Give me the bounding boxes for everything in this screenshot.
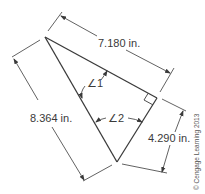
dimension-top-label: 7.180 in. (98, 37, 140, 49)
dimension-left-label: 8.364 in. (30, 112, 72, 124)
hypotenuse-side (45, 37, 117, 162)
angle-1-label: ∠1 (87, 77, 103, 89)
triangle-diagram: 7.180 in. 8.364 in. 4.290 in. ∠1 ∠2 © Ce… (0, 0, 205, 194)
copyright-text: © Cengage Learning 2013 (193, 113, 201, 190)
angle-2-label: ∠2 (108, 112, 124, 124)
dimension-right-label: 4.290 in. (148, 132, 190, 144)
right-side (117, 98, 157, 162)
